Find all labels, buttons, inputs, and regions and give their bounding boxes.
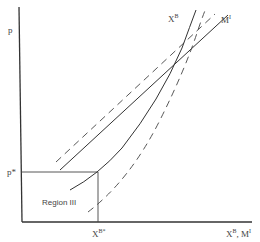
p-star-text: p*: [7, 167, 16, 177]
mi-curve-label-main: M: [221, 15, 229, 25]
x-axis-label-second-sup: I: [249, 228, 251, 234]
p-star-label: p*: [7, 168, 16, 177]
mi-curve-label: MI: [221, 14, 231, 25]
xb-star-sup: B*: [99, 228, 106, 234]
region-iii-text: Region III: [42, 198, 76, 207]
diagram-canvas: [0, 0, 260, 242]
xb-curve-solid: [70, 10, 196, 190]
xb-star-label: XB*: [92, 228, 106, 239]
mi-curve-solid: [60, 15, 228, 170]
xb-curve-label-sup: B: [175, 13, 179, 19]
mi-curve-dashed: [56, 14, 215, 162]
y-axis: [19, 7, 22, 222]
y-axis-label-text: p: [8, 25, 13, 35]
x-axis-label-second: M: [241, 229, 249, 239]
xb-curve-label: XB: [168, 13, 179, 24]
region-iii-label: Region III: [42, 199, 76, 207]
x-axis-label: XB, MI: [226, 228, 251, 239]
mi-curve-label-sup: I: [229, 14, 231, 20]
y-axis-label: p: [8, 26, 13, 35]
